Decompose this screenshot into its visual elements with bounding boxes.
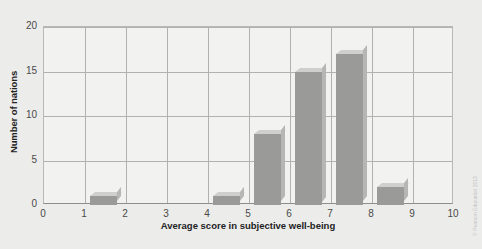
bar-face (254, 134, 281, 205)
x-axis-tick-label: 2 (113, 209, 137, 219)
bar-side-face (240, 187, 244, 201)
x-axis-tick-label: 0 (31, 209, 55, 219)
gridline-vertical (331, 27, 332, 203)
bar-face (90, 196, 117, 205)
bar-face (213, 196, 240, 205)
x-axis-tick-label: 5 (236, 209, 260, 219)
gridline-vertical (126, 27, 127, 203)
bar (295, 72, 322, 206)
bar-side-face (363, 45, 367, 201)
bar-face (295, 72, 322, 206)
y-axis-tick-label: 5 (7, 155, 37, 165)
gridline-horizontal (44, 161, 452, 162)
credit-text: © Pearson Education 2013 (472, 128, 478, 236)
x-axis-tick-label: 10 (441, 209, 465, 219)
gridline-vertical (372, 27, 373, 203)
bar-side-face (322, 62, 326, 201)
gridline-vertical (290, 27, 291, 203)
y-axis-tick-label: 20 (7, 21, 37, 31)
y-axis-tick-label: 15 (7, 66, 37, 76)
gridline-horizontal (44, 72, 452, 73)
bar-side-face (404, 178, 408, 201)
gridline-vertical (413, 27, 414, 203)
credit-line: © Pearson Education 2013 (469, 128, 481, 238)
bar-side-face (117, 187, 121, 201)
bar (336, 54, 363, 205)
gridline-horizontal (44, 27, 452, 28)
bar (254, 134, 281, 205)
x-axis-tick-label: 4 (195, 209, 219, 219)
bar-side-face (281, 125, 285, 201)
x-axis-tick-label: 9 (400, 209, 424, 219)
bar-face (336, 54, 363, 205)
x-axis-tick-label: 6 (277, 209, 301, 219)
gridline-horizontal (44, 116, 452, 117)
gridline-vertical (167, 27, 168, 203)
bar (377, 187, 404, 205)
gridline-vertical (85, 27, 86, 203)
x-axis-tick-label: 8 (359, 209, 383, 219)
x-axis-title: Average score in subjective well-being (43, 220, 453, 231)
x-axis-tick-label: 3 (154, 209, 178, 219)
bar (90, 196, 117, 205)
chart-figure: Number of nations 05101520 012345678910 … (0, 0, 482, 249)
bar (213, 196, 240, 205)
bar-face (377, 187, 404, 205)
gridline-vertical (249, 27, 250, 203)
gridline-vertical (208, 27, 209, 203)
x-axis-tick-label: 1 (72, 209, 96, 219)
plot-area (43, 26, 453, 204)
y-axis-tick-label: 10 (7, 110, 37, 120)
x-axis-tick-label: 7 (318, 209, 342, 219)
y-axis-tick-label: 0 (7, 199, 37, 209)
